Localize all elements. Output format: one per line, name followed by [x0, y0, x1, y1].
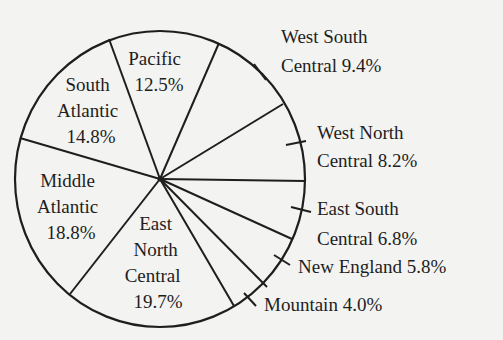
pie-chart: Pacific 12.5% South Atlantic 14.8% Middl…	[0, 0, 503, 340]
label-mountain: Mountain 4.0%	[264, 294, 382, 315]
label-east-south-central: East South Central 6.8%	[317, 198, 417, 249]
label-south-atlantic: South Atlantic 14.8%	[57, 74, 123, 147]
label-new-england: New England 5.8%	[298, 256, 446, 277]
label-middle-atlantic: Middle Atlantic 18.8%	[37, 170, 103, 243]
pie-center	[158, 177, 163, 182]
label-west-north-central: West North Central 8.2%	[317, 122, 417, 171]
label-west-south-central: West South Central 9.4%	[281, 26, 381, 76]
